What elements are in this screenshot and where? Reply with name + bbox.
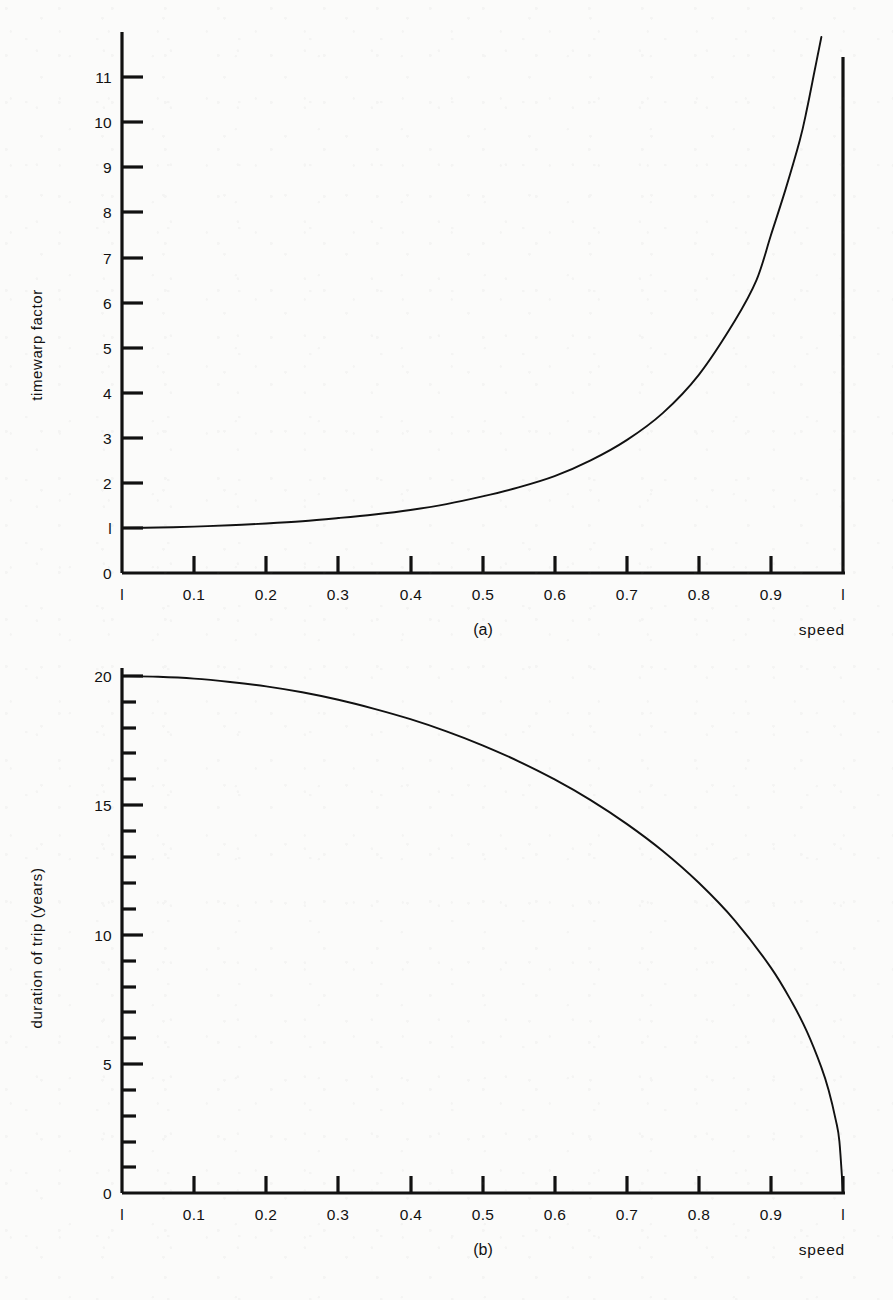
chart-a-x-tick-label-3: 0.3 [327, 586, 349, 603]
chart-a-y-axis-title: timewarp factor [28, 289, 45, 401]
chart-a-data-curve [122, 37, 821, 528]
chart-a-x-axis-title: speed [799, 621, 845, 638]
chart-b-x-tick-label-7: 0.7 [616, 1206, 638, 1223]
chart-a-x-tick-label-7: 0.7 [616, 586, 638, 603]
chart-panel-b: 0 5 10 15 20 l 0.1 0.2 [0, 648, 893, 1300]
chart-b-x-tick-label-8: 0.8 [688, 1206, 710, 1223]
figure-page: 0 l 2 3 4 5 6 7 8 9 10 11 [0, 0, 893, 1300]
chart-b-y-major-ticks [122, 676, 143, 1064]
chart-a-x-tick-label-5: 0.5 [472, 586, 494, 603]
chart-b-x-axis-title: speed [799, 1241, 845, 1258]
chart-a-y-tick-label-2: 2 [103, 475, 112, 492]
chart-a-y-tick-labels: 0 l 2 3 4 5 6 7 8 9 10 11 [94, 69, 112, 582]
chart-a-x-tick-label-9: 0.9 [760, 586, 782, 603]
chart-b-x-tick-label-2: 0.2 [255, 1206, 277, 1223]
chart-b-y-tick-label-5: 5 [103, 1056, 112, 1073]
chart-b-y-tick-labels: 0 5 10 15 20 [94, 668, 112, 1202]
chart-a-y-tick-label-0: 0 [103, 565, 112, 582]
chart-a-y-tick-label-9: 9 [103, 159, 112, 176]
chart-a-y-ticks [122, 77, 143, 528]
chart-a-y-tick-label-3: 3 [103, 430, 112, 447]
chart-a-y-tick-label-7: 7 [103, 250, 112, 267]
chart-b-y-tick-label-10: 10 [94, 927, 112, 944]
chart-b-x-tick-label-3: 0.3 [327, 1206, 349, 1223]
chart-a-x-tick-label-4: 0.4 [400, 586, 423, 603]
chart-a-x-tick-label-10: l [841, 586, 845, 603]
chart-a-x-tick-label-2: 0.2 [255, 586, 277, 603]
chart-a-y-tick-label-1: l [108, 520, 112, 537]
chart-b-x-tick-label-10: l [841, 1206, 845, 1223]
chart-b-x-tick-label-5: 0.5 [472, 1206, 494, 1223]
chart-b-svg: 0 5 10 15 20 l 0.1 0.2 [0, 648, 893, 1300]
chart-b-x-tick-label-6: 0.6 [544, 1206, 566, 1223]
chart-a-x-tick-label-0: l [120, 586, 124, 603]
chart-a-y-tick-label-8: 8 [103, 204, 112, 221]
chart-a-x-tick-label-1: 0.1 [183, 586, 205, 603]
chart-b-x-tick-label-4: 0.4 [400, 1206, 423, 1223]
chart-b-x-tick-labels: l 0.1 0.2 0.3 0.4 0.5 0.6 0.7 0.8 0.9 l [120, 1206, 845, 1223]
chart-b-y-axis-title: duration of trip (years) [28, 867, 45, 1028]
chart-b-x-ticks [194, 1176, 843, 1193]
chart-a-y-tick-label-5: 5 [103, 340, 112, 357]
chart-a-x-tick-labels: l 0.1 0.2 0.3 0.4 0.5 0.6 0.7 0.8 0.9 l [120, 586, 845, 603]
chart-b-y-tick-label-0: 0 [103, 1185, 112, 1202]
chart-a-y-tick-label-11: 11 [95, 69, 112, 86]
chart-b-caption: (b) [473, 1241, 493, 1258]
chart-b-y-tick-label-15: 15 [94, 797, 112, 814]
chart-a-y-tick-label-6: 6 [103, 295, 112, 312]
chart-b-x-tick-label-1: 0.1 [183, 1206, 205, 1223]
chart-a-y-tick-label-4: 4 [103, 385, 112, 402]
chart-a-x-tick-label-6: 0.6 [544, 586, 566, 603]
chart-a-svg: 0 l 2 3 4 5 6 7 8 9 10 11 [0, 0, 893, 650]
chart-a-x-tick-label-8: 0.8 [688, 586, 710, 603]
chart-a-caption: (a) [473, 621, 493, 638]
chart-b-data-curve [122, 676, 843, 1193]
chart-b-x-tick-label-9: 0.9 [760, 1206, 782, 1223]
chart-panel-a: 0 l 2 3 4 5 6 7 8 9 10 11 [0, 0, 893, 650]
chart-b-x-tick-label-0: l [120, 1206, 124, 1223]
chart-b-y-tick-label-20: 20 [94, 668, 112, 685]
chart-a-y-tick-label-10: 10 [94, 114, 112, 131]
chart-a-x-ticks [194, 556, 771, 573]
